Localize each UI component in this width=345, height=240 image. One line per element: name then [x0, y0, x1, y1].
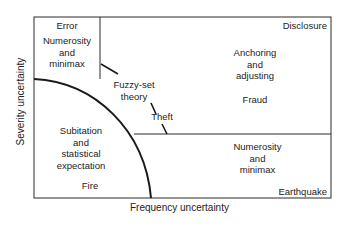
method-line: adjusting	[200, 70, 310, 82]
x-axis-label: Frequency uncertainty	[130, 202, 229, 213]
method-line: statistical	[45, 148, 117, 160]
method-line: Anchoring	[200, 47, 310, 59]
bottom-left-method: Subitation and statistical expectation	[45, 125, 117, 171]
earthquake-label: Earthquake	[250, 186, 327, 198]
disclosure-label: Disclosure	[260, 20, 327, 32]
top-right-method: Anchoring and adjusting	[200, 47, 310, 82]
method-line: expectation	[45, 160, 117, 172]
theft-label: Theft	[140, 111, 184, 123]
fraud-label: Fraud	[200, 94, 310, 106]
method-line: Numerosity	[215, 141, 300, 153]
middle-method: Fuzzy-set theory	[104, 79, 164, 102]
method-line: and	[38, 47, 96, 59]
y-axis-label: Severity uncertainty	[15, 66, 26, 146]
method-line: Subitation	[45, 125, 117, 137]
method-line: theory	[104, 91, 164, 103]
top-left-method: Numerosity and minimax	[38, 35, 96, 70]
method-line: Numerosity	[38, 35, 96, 47]
method-line: and	[215, 153, 300, 165]
method-line: and	[200, 59, 310, 71]
method-line: Fuzzy-set	[104, 79, 164, 91]
fire-label: Fire	[60, 180, 120, 192]
bottom-right-method: Numerosity and minimax	[215, 141, 300, 176]
method-line: and	[45, 137, 117, 149]
method-line: minimax	[38, 58, 96, 70]
method-line: minimax	[215, 164, 300, 176]
error-label: Error	[38, 20, 96, 32]
